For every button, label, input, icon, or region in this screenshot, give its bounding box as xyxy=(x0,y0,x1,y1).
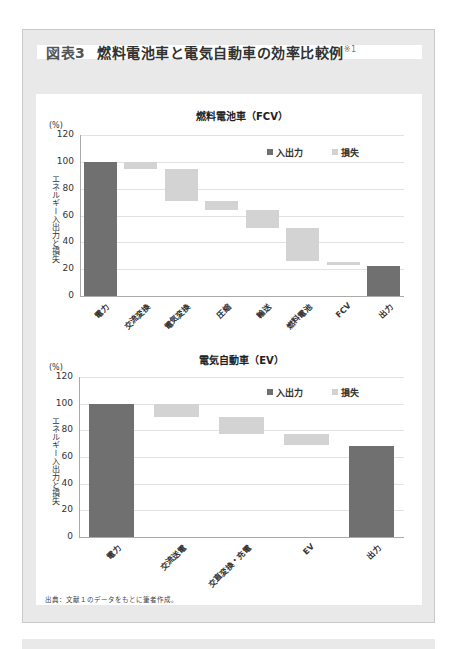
gridline xyxy=(80,135,404,136)
y-tick-label: 100 xyxy=(52,156,74,166)
legend-io: 入出力 xyxy=(267,146,303,159)
chart-title: 燃料電池車（FCV） xyxy=(196,108,288,123)
legend-loss-swatch xyxy=(332,389,338,395)
figure-title: 図表3燃料電池車と電気自動車の効率比較例※1 xyxy=(46,42,357,62)
figure-number: 図表3 xyxy=(46,45,85,61)
footnote-mark: ※1 xyxy=(344,45,357,54)
gridline xyxy=(80,216,404,217)
legend-io: 入出力 xyxy=(267,386,303,399)
legend-loss-label: 損失 xyxy=(341,388,359,398)
gridline xyxy=(80,242,404,243)
gridline xyxy=(79,377,404,378)
y-tick-label: 100 xyxy=(51,398,73,408)
legend-io-swatch xyxy=(267,389,273,395)
y-tick-label: 20 xyxy=(51,504,73,514)
y-tick-label: 120 xyxy=(51,371,73,381)
legend-io-label: 入出力 xyxy=(276,388,303,398)
x-axis xyxy=(80,296,404,297)
gridline xyxy=(80,269,404,270)
legend-loss-swatch xyxy=(332,149,338,155)
y-axis-title: エネルギー入出力と損失 xyxy=(49,417,60,505)
y-axis xyxy=(79,377,80,537)
gridline xyxy=(80,189,404,190)
io-bar xyxy=(84,162,117,296)
loss-bar xyxy=(219,417,265,434)
figure-title-text: 燃料電池車と電気自動車の効率比較例 xyxy=(97,45,344,61)
y-tick-label: 120 xyxy=(52,129,74,139)
loss-bar xyxy=(165,169,198,201)
loss-bar xyxy=(327,262,360,265)
source-note: 出典：文献１のデータをもとに筆者作成。 xyxy=(45,594,178,604)
next-figure-bar xyxy=(22,639,435,649)
io-bar xyxy=(89,404,135,537)
legend-loss: 損失 xyxy=(332,146,359,159)
legend-io-swatch xyxy=(267,149,273,155)
y-axis-title: エネルギー入出力と損失 xyxy=(49,175,60,263)
loss-bar xyxy=(246,210,279,227)
legend-loss: 損失 xyxy=(332,386,359,399)
chart-title: 電気自動車（EV） xyxy=(199,352,284,367)
y-axis xyxy=(80,135,81,296)
y-tick-label: 0 xyxy=(51,531,73,541)
x-axis xyxy=(79,537,404,538)
loss-bar xyxy=(286,228,319,262)
loss-bar xyxy=(124,162,157,169)
y-tick-label: 20 xyxy=(52,263,74,273)
legend-io-label: 入出力 xyxy=(276,148,303,158)
y-tick-label: 0 xyxy=(52,290,74,300)
loss-bar xyxy=(284,434,330,445)
legend-loss-label: 損失 xyxy=(341,148,359,158)
loss-bar xyxy=(154,404,200,417)
loss-bar xyxy=(205,201,238,210)
io-bar xyxy=(367,266,400,296)
io-bar xyxy=(349,446,395,537)
